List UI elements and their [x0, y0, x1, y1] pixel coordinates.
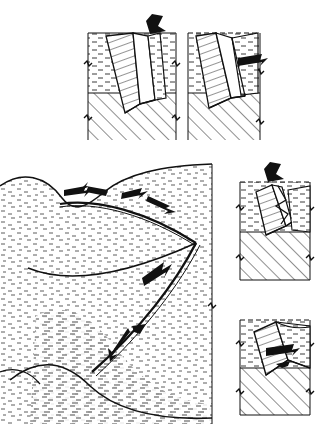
- panel-main: [0, 164, 216, 424]
- panel-3-footwall-cover: [288, 186, 310, 232]
- panel-1: [84, 14, 180, 140]
- panel-2: [188, 33, 268, 140]
- figure-root: [0, 0, 322, 426]
- structural-geology-figure: [0, 0, 322, 426]
- panel-3-basement-unit: [240, 232, 310, 280]
- panel-4: [236, 320, 314, 415]
- panel-4-basement-unit: [240, 368, 310, 415]
